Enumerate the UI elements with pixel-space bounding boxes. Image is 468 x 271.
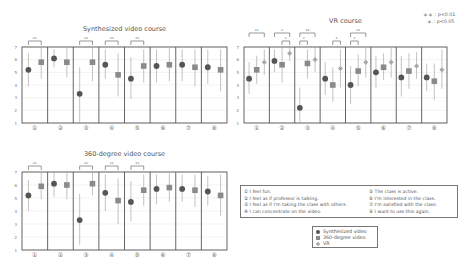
svg-text:**: **	[110, 161, 114, 166]
svg-text:**: **	[255, 28, 259, 33]
svg-text:⑧: ⑧	[211, 251, 216, 258]
svg-text:**: **	[84, 161, 88, 166]
svg-text:⑦: ⑦	[186, 251, 191, 258]
svg-text:**: **	[305, 28, 309, 33]
svg-text:⑦: ⑦	[406, 124, 411, 131]
svg-text:3: 3	[14, 222, 17, 227]
svg-text:⑤: ⑤	[355, 124, 360, 131]
svg-text:*: *	[303, 36, 305, 41]
svg-text:2: 2	[14, 108, 17, 113]
svg-text:1: 1	[236, 121, 239, 126]
svg-text:*: *	[336, 36, 338, 41]
svg-text:*: *	[281, 28, 283, 33]
svg-text:4: 4	[14, 83, 17, 88]
svg-text:④: ④	[330, 124, 335, 131]
svg-text:③: ③	[83, 124, 88, 131]
svg-text:**: **	[135, 161, 139, 166]
svg-text:**: **	[110, 36, 114, 41]
svg-text:4: 4	[14, 209, 17, 214]
chart-0: 1234567①②③④⑤⑥⑦⑧********	[14, 36, 227, 131]
question-item: ③ I feel as if I'm taking the class with…	[244, 202, 347, 209]
svg-text:④: ④	[109, 251, 114, 258]
svg-text:⑥: ⑥	[160, 124, 165, 131]
svg-text:**: **	[33, 36, 37, 41]
question-item: ⑧ I want to use this again.	[369, 209, 437, 216]
question-item: ⑥ I'm interested in the class.	[369, 196, 437, 203]
square-marker-icon	[316, 236, 320, 240]
svg-text:4: 4	[236, 83, 239, 88]
series-legend-vr: VR	[316, 241, 374, 247]
question-legend: ① I feel fun. ② I feel as if professor i…	[240, 185, 458, 218]
svg-text:**: **	[84, 36, 88, 41]
svg-text:**: **	[356, 28, 360, 33]
svg-text:2: 2	[236, 108, 239, 113]
svg-text:6: 6	[14, 183, 17, 188]
svg-text:7: 7	[14, 170, 17, 175]
svg-text:3: 3	[236, 95, 239, 100]
svg-text:⑧: ⑧	[211, 124, 216, 131]
svg-text:*: *	[285, 36, 287, 41]
chart-2: 1234567①②③④⑤⑥⑦⑧********	[14, 161, 227, 258]
question-item: ⑤ The class is active.	[369, 189, 437, 196]
svg-text:7: 7	[236, 45, 239, 50]
series-legend: Synthesized video 360-degree video VR	[312, 226, 378, 248]
svg-text:*: *	[353, 36, 355, 41]
svg-text:①: ①	[254, 124, 259, 131]
svg-text:**: **	[135, 36, 139, 41]
svg-text:⑧: ⑧	[432, 124, 437, 131]
svg-text:6: 6	[14, 57, 17, 62]
svg-text:③: ③	[83, 251, 88, 258]
question-item: ⑦ I'm satisfied with the class.	[369, 202, 437, 209]
svg-text:5: 5	[14, 70, 17, 75]
svg-text:5: 5	[236, 70, 239, 75]
circle-marker-icon	[316, 230, 320, 234]
question-item: ① I feel fun.	[244, 189, 347, 196]
svg-text:**: **	[33, 161, 37, 166]
svg-text:⑥: ⑥	[160, 251, 165, 258]
svg-text:6: 6	[236, 57, 239, 62]
svg-text:⑥: ⑥	[381, 124, 386, 131]
charts-canvas: 1234567①②③④⑤⑥⑦⑧********1234567①②③④⑤⑥⑦⑧**…	[0, 0, 468, 271]
question-legend-col-1: ① I feel fun. ② I feel as if professor i…	[244, 189, 347, 215]
svg-text:⑤: ⑤	[135, 251, 140, 258]
svg-text:④: ④	[109, 124, 114, 131]
svg-text:⑦: ⑦	[186, 124, 191, 131]
question-item: ④ I can concentrate on the video.	[244, 209, 347, 216]
svg-text:3: 3	[14, 95, 17, 100]
question-legend-col-2: ⑤ The class is active. ⑥ I'm interested …	[369, 189, 437, 215]
svg-text:②: ②	[58, 251, 63, 258]
svg-text:2: 2	[14, 235, 17, 240]
svg-text:1: 1	[14, 121, 17, 126]
svg-text:1: 1	[14, 248, 17, 253]
svg-text:7: 7	[14, 45, 17, 50]
svg-text:①: ①	[32, 251, 37, 258]
chart-1: 1234567①②③④⑤⑥⑦⑧***********	[236, 28, 447, 131]
svg-text:③: ③	[305, 124, 310, 131]
svg-text:①: ①	[32, 124, 37, 131]
svg-text:②: ②	[279, 124, 284, 131]
svg-text:⑤: ⑤	[135, 124, 140, 131]
svg-text:②: ②	[58, 124, 63, 131]
question-item: ② I feel as if professor is talking.	[244, 196, 347, 203]
svg-text:5: 5	[14, 196, 17, 201]
diamond-marker-icon	[316, 241, 321, 246]
